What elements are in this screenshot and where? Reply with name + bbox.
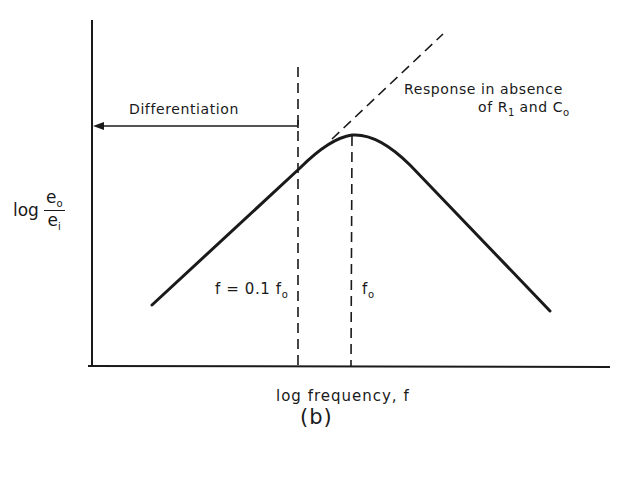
y-axis-fraction: eo ei (44, 188, 65, 232)
x-axis (88, 366, 610, 367)
y-axis-denominator: ei (48, 211, 61, 232)
peak-marker-line (351, 136, 352, 366)
peak-label-text: f (362, 280, 368, 298)
denominator-subscript: i (58, 221, 61, 232)
cutoff-label: f = 0.1 fo (215, 280, 288, 298)
peak-label-subscript: o (368, 289, 374, 300)
response-annotation-line1: Response in absence (404, 81, 563, 97)
numerator-text: e (46, 187, 56, 207)
y-axis-label: log eo ei (13, 188, 65, 232)
y-axis-numerator: eo (44, 188, 65, 211)
response-c-subscript: o (563, 107, 569, 118)
response-r-subscript: 1 (508, 107, 514, 118)
numerator-subscript: o (56, 198, 62, 209)
arrowhead-left-icon (93, 122, 104, 130)
x-axis-label: log frequency, f (276, 387, 410, 405)
response-c-text: and C (514, 99, 563, 115)
cutoff-label-subscript: o (282, 289, 288, 300)
y-axis-log-text: log (13, 200, 39, 220)
peak-label: fo (362, 280, 374, 298)
denominator-text: e (48, 210, 58, 230)
differentiation-label: Differentiation (129, 101, 239, 117)
response-r-text: of R (478, 99, 508, 115)
figure-caption: (b) (300, 405, 333, 429)
cutoff-label-text: f = 0.1 f (215, 280, 282, 298)
response-annotation-line2: of R1 and Co (478, 99, 569, 115)
